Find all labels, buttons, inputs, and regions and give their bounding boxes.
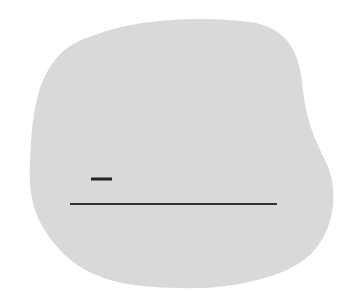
figure-canvas <box>0 0 356 291</box>
blob-shape <box>30 19 334 288</box>
